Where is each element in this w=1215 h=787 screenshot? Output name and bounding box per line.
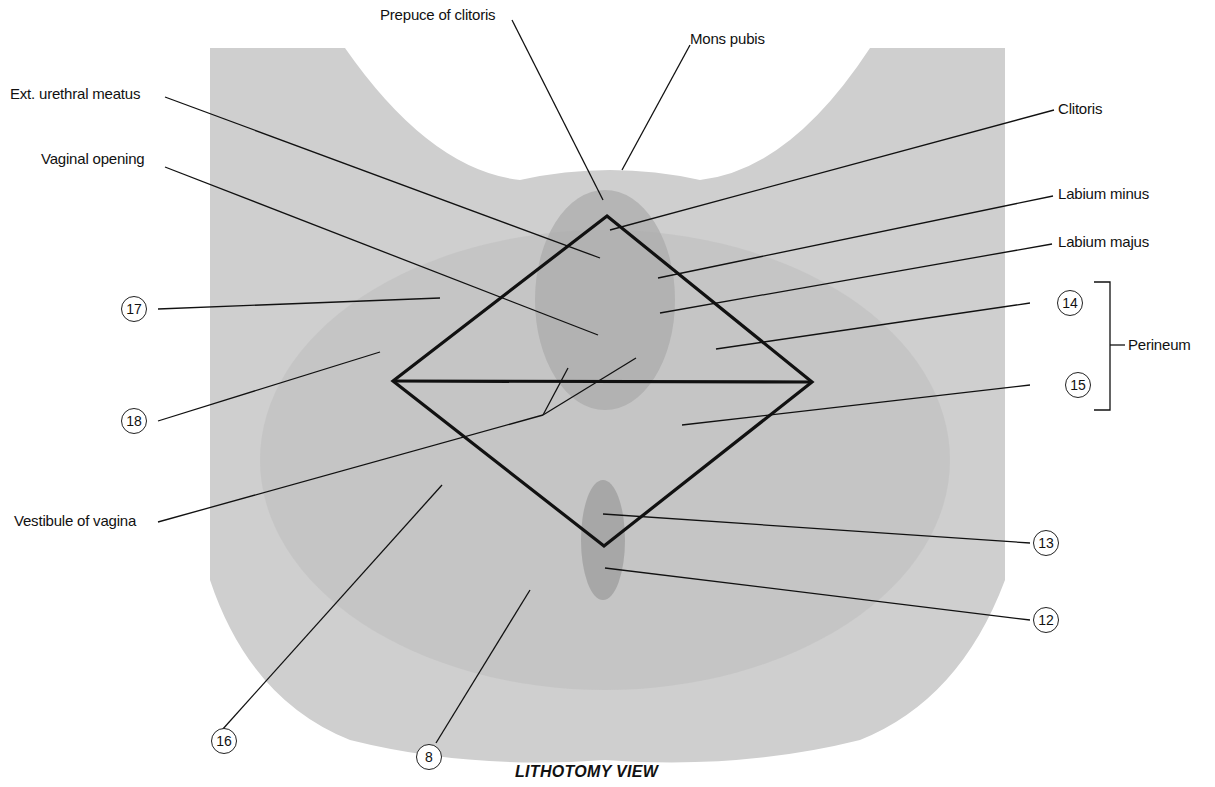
callout-15: 15: [1065, 372, 1091, 398]
label-mons-pubis: Mons pubis: [690, 30, 765, 47]
figure-caption: LITHOTOMY VIEW: [515, 763, 658, 781]
callout-13: 13: [1033, 530, 1059, 556]
illustration-plate: [0, 0, 1215, 787]
label-labium-minus: Labium minus: [1058, 185, 1149, 202]
label-vaginal-opening: Vaginal opening: [41, 150, 144, 167]
callout-17: 17: [121, 296, 147, 322]
callout-14: 14: [1057, 290, 1083, 316]
callout-12: 12: [1033, 607, 1059, 633]
callout-16: 16: [211, 728, 237, 754]
callout-8: 8: [416, 744, 442, 770]
label-prepuce-of-clitoris: Prepuce of clitoris: [380, 6, 495, 23]
label-ext-urethral-meatus: Ext. urethral meatus: [10, 85, 140, 102]
label-labium-majus: Labium majus: [1058, 233, 1149, 250]
label-clitoris: Clitoris: [1058, 100, 1102, 117]
callout-18: 18: [121, 408, 147, 434]
label-perineum: Perineum: [1128, 336, 1191, 353]
label-vestibule-of-vagina: Vestibule of vagina: [14, 512, 136, 529]
